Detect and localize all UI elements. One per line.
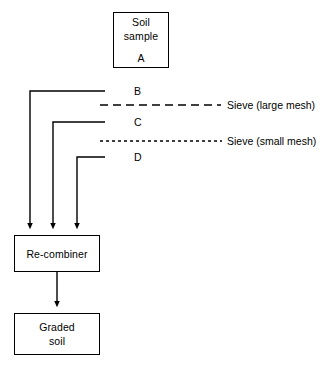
- fraction-path-c: [53, 122, 105, 226]
- fraction-path-b: [30, 91, 105, 226]
- node-graded-soil[interactable]: Graded soil: [14, 313, 100, 355]
- node-soil-sample-sublabel: A: [137, 51, 144, 65]
- fraction-label-b: B: [134, 85, 141, 97]
- fraction-label-d: D: [134, 151, 142, 163]
- sieve-label-large-mesh: Sieve (large mesh): [227, 99, 315, 111]
- node-graded-soil-line-2: soil: [49, 334, 65, 348]
- node-soil-sample[interactable]: Soil sample A: [113, 12, 169, 68]
- sieve-label-small-mesh: Sieve (small mesh): [227, 135, 316, 147]
- fraction-label-c: C: [134, 116, 142, 128]
- node-graded-soil-line-1: Graded: [39, 320, 75, 334]
- node-re-combiner[interactable]: Re-combiner: [14, 235, 100, 272]
- soil-grading-diagram: Soil sample A Re-combiner Graded soil B …: [0, 0, 336, 369]
- node-soil-sample-line-1: Soil: [132, 15, 150, 29]
- node-re-combiner-label: Re-combiner: [26, 247, 87, 261]
- node-soil-sample-line-2: sample: [124, 29, 158, 43]
- fraction-path-d: [77, 157, 105, 226]
